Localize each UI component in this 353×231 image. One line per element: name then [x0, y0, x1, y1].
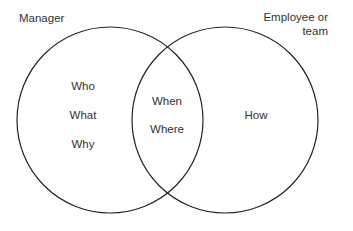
manager-label: Manager [19, 11, 64, 25]
manager-item-why: Why [72, 137, 95, 151]
intersection-item-when: When [152, 94, 182, 108]
manager-item-who: Who [71, 79, 95, 93]
manager-circle [17, 27, 203, 213]
intersection-item-where: Where [150, 122, 184, 136]
employee-label-line1: Employee or [263, 10, 328, 24]
employee-label-line2: team [263, 24, 328, 38]
employee-circle [132, 27, 318, 213]
employee-label: Employee or team [263, 10, 328, 38]
employee-item-how: How [244, 108, 267, 122]
manager-item-what: What [70, 108, 97, 122]
